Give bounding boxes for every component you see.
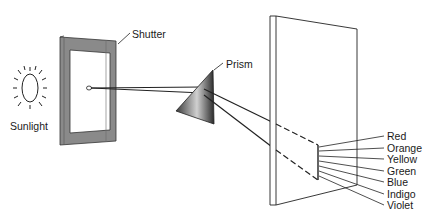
shutter-label: Shutter bbox=[132, 28, 166, 40]
light-beam bbox=[91, 87, 203, 93]
dispersed-beam bbox=[204, 89, 276, 150]
shutter-hole bbox=[87, 86, 92, 90]
prism-label: Prism bbox=[226, 58, 253, 70]
spectrum-label-blue: Blue bbox=[387, 176, 408, 188]
prism bbox=[176, 70, 214, 124]
sunlight-label: Sunlight bbox=[10, 120, 48, 132]
spectrum-labels: Red Orange Yellow Green Blue Indigo Viol… bbox=[387, 130, 422, 211]
prism-diagram: Sunlight Shutter Prism bbox=[0, 0, 428, 217]
shutter-leader-line bbox=[118, 33, 130, 44]
prism-leader-line bbox=[214, 63, 223, 70]
spectrum-label-yellow: Yellow bbox=[387, 153, 417, 165]
spectrum-label-violet: Violet bbox=[387, 199, 413, 211]
spectrum-label-red: Red bbox=[387, 130, 406, 142]
shutter bbox=[60, 36, 116, 145]
sun-icon bbox=[13, 66, 47, 109]
